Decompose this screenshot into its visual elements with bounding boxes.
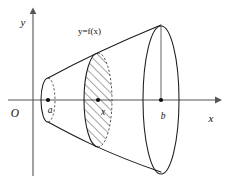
point-x-dot xyxy=(96,98,100,102)
point-b-label: b xyxy=(161,111,166,121)
point-b-dot xyxy=(159,98,163,102)
axes-group xyxy=(8,8,222,177)
y-axis-label: y xyxy=(20,16,26,28)
point-a-label: a xyxy=(48,105,53,115)
x-axis-label: x xyxy=(208,112,214,124)
curve-function-label: y=f(x) xyxy=(78,26,101,36)
cross-section-x xyxy=(82,51,114,149)
x-axis-arrowhead xyxy=(215,97,222,104)
figure-canvas: y x O a x b y=f(x) xyxy=(0,0,228,182)
y-axis-arrowhead xyxy=(30,8,37,15)
solid-of-revolution-figure: y x O a x b y=f(x) xyxy=(0,0,228,182)
point-x-label: x xyxy=(100,107,106,117)
origin-label: O xyxy=(11,107,20,119)
point-a-dot xyxy=(46,98,50,102)
